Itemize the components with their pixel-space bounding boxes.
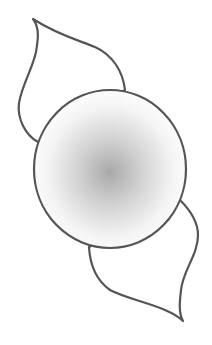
line-art-drawing — [0, 0, 212, 345]
gradient-orb-circle — [34, 90, 186, 248]
